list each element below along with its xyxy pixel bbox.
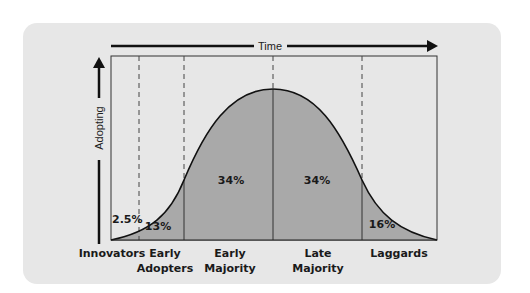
category-innovators: Innovators (79, 247, 146, 260)
percent-early-majority: 34% (218, 174, 244, 187)
category-late-majority-line1: Late (304, 247, 331, 260)
percent-early-adopters: 13% (145, 220, 171, 233)
percent-late-majority: 34% (304, 174, 330, 187)
time-arrow-head-icon (427, 40, 438, 52)
category-early-adopters-line2: Adopters (137, 262, 194, 275)
category-late-majority-line2: Majority (292, 262, 343, 275)
diffusion-chart: Time Adopting 2.5% 13% 34% 34% 16% Innov… (0, 0, 530, 293)
category-laggards: Laggards (370, 247, 428, 260)
category-early-adopters-line1: Early (149, 247, 180, 260)
percent-laggards: 16% (369, 218, 395, 231)
category-early-majority-line1: Early (214, 247, 245, 260)
percent-innovators: 2.5% (112, 213, 143, 226)
adopting-label: Adopting (93, 106, 105, 149)
category-early-majority-line2: Majority (204, 262, 255, 275)
adopting-arrow-head-icon (93, 57, 105, 68)
time-label: Time (258, 40, 282, 52)
